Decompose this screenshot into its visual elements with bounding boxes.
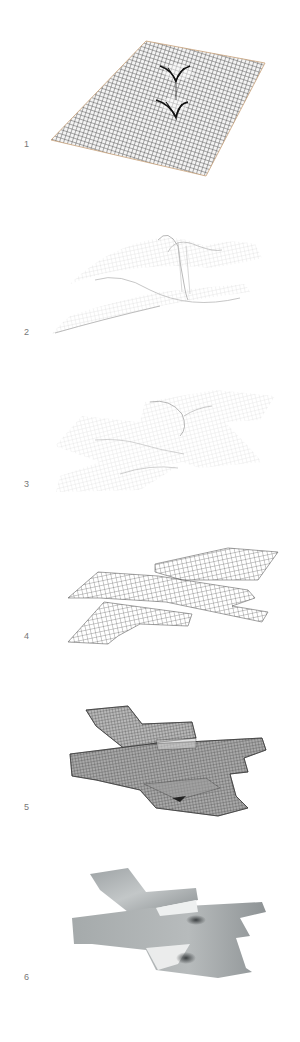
stage-number-label: 5 <box>24 803 29 812</box>
stage-number-label: 1 <box>24 140 29 149</box>
shaded-solid-surface-illustration <box>0 860 300 1042</box>
dimpled-grid-surface-illustration <box>0 0 300 180</box>
flat-grid-cross-plan-illustration <box>0 510 300 680</box>
stage-number-label: 4 <box>24 632 29 641</box>
layered-wireframe-cross-illustration <box>0 680 300 860</box>
stage-5: 5 <box>0 680 300 860</box>
stage-1: 1 <box>0 0 300 180</box>
stage-6: 6 <box>0 860 300 1042</box>
stage-number-label: 6 <box>24 973 29 982</box>
stage-3: 3 <box>0 350 300 510</box>
stage-number-label: 2 <box>24 328 29 337</box>
faint-cross-surface-illustration <box>0 350 300 510</box>
stage-4: 4 <box>0 510 300 680</box>
stage-number-label: 3 <box>24 480 29 489</box>
undulating-wireframe-illustration <box>0 180 300 350</box>
stage-2: 2 <box>0 180 300 350</box>
